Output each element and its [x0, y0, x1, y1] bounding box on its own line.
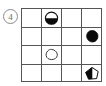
blob-outline-shape: [46, 49, 57, 59]
cell-r1c2-circle-half-bottom: [45, 12, 57, 24]
shape-grid: [21, 8, 102, 82]
item-number-badge: 4: [3, 9, 18, 24]
cell-r3c2-blob-outline: [46, 49, 57, 59]
grid-svg: [21, 8, 102, 82]
blob-solid-shape: [87, 31, 98, 42]
puzzle-figure: 4: [0, 0, 106, 86]
cell-r4c4-pentagon-half-left: [86, 67, 99, 79]
cell-r2c4-blob-solid: [87, 31, 98, 42]
